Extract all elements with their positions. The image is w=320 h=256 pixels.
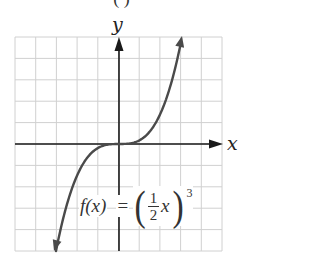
formula-variable: x xyxy=(161,195,169,217)
y-axis-arrow-icon xyxy=(115,37,124,51)
formula-lhs: f(x) xyxy=(79,195,107,217)
formula-rhs: ( 1 2 x ) 3 xyxy=(133,186,192,226)
y-axis-label: y xyxy=(111,13,123,35)
function-formula: f(x) = ( 1 2 x ) 3 xyxy=(79,186,193,226)
curve-arrow-up-icon xyxy=(175,36,184,48)
fraction-numerator: 1 xyxy=(150,190,158,206)
formula-exponent: 3 xyxy=(187,186,193,201)
fraction-denominator: 2 xyxy=(150,207,158,223)
x-axis-label: x xyxy=(227,132,238,154)
formula-equals: = xyxy=(116,195,129,217)
formula-close-paren: ) xyxy=(172,186,183,226)
formula-fraction: 1 2 xyxy=(148,190,159,223)
formula-open-paren: ( xyxy=(134,186,145,226)
x-axis-arrow-icon xyxy=(209,140,223,149)
